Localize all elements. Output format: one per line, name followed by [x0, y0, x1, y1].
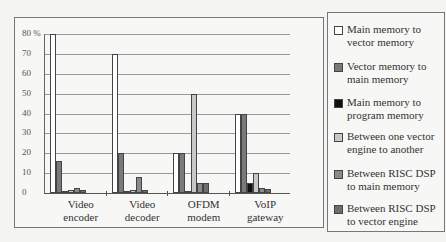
- gridline: [44, 114, 290, 115]
- gridline: [44, 74, 290, 75]
- x-axis-label: OFDMmodem: [174, 198, 234, 224]
- legend-label: Between RISC DSP: [347, 167, 436, 179]
- y-tick-label: 60: [22, 68, 42, 78]
- legend-label: Vector memory to: [347, 60, 426, 72]
- y-tick-label: 10: [22, 167, 42, 177]
- legend-label: program memory: [347, 109, 424, 121]
- gridline: [44, 94, 290, 95]
- legend-label: Between one vector: [347, 130, 434, 142]
- bar: [56, 161, 62, 193]
- gridline: [44, 54, 290, 55]
- legend-label: vector memory: [347, 36, 414, 48]
- y-tick-label: 40: [22, 108, 42, 118]
- gridline: [44, 34, 290, 35]
- legend-label: main memory: [347, 73, 408, 85]
- bar: [203, 183, 209, 193]
- gridline: [44, 133, 290, 134]
- y-tick-label: 0: [22, 187, 42, 197]
- bar: [191, 94, 197, 193]
- legend-label: to main memory: [347, 180, 420, 192]
- legend-swatch-icon: [334, 26, 343, 35]
- bar: [179, 153, 185, 193]
- legend-swatch-icon: [334, 133, 343, 142]
- x-tick: [229, 191, 230, 196]
- legend-swatch-icon: [334, 170, 343, 179]
- legend-label: Main memory to: [347, 96, 421, 108]
- legend-label: to vector engine: [347, 215, 418, 227]
- x-tick: [106, 191, 107, 196]
- x-tick: [167, 191, 168, 196]
- plot-area: [44, 34, 290, 193]
- legend-label: engine to another: [347, 143, 423, 155]
- x-axis-label: VoIPgateway: [235, 198, 295, 224]
- legend-label: Main memory to: [347, 23, 421, 35]
- legend-swatch-icon: [334, 63, 343, 72]
- legend-swatch-icon: [334, 99, 343, 108]
- y-tick-label: 20: [22, 147, 42, 157]
- legend: Main memory tovector memory Vector memor…: [327, 12, 445, 232]
- y-tick-label: 80 %: [22, 28, 42, 38]
- y-axis-line: [44, 34, 45, 194]
- y-tick-label: 30: [22, 127, 42, 137]
- gridline: [44, 153, 290, 154]
- x-axis-label: Videodecoder: [112, 198, 172, 224]
- legend-label: Between RISC DSP: [347, 202, 436, 214]
- bar: [241, 114, 247, 194]
- legend-swatch-icon: [334, 205, 343, 214]
- bar: [118, 153, 124, 193]
- y-tick-label: 70: [22, 48, 42, 58]
- x-axis-label: Videoencoder: [51, 198, 111, 224]
- y-tick-label: 50: [22, 88, 42, 98]
